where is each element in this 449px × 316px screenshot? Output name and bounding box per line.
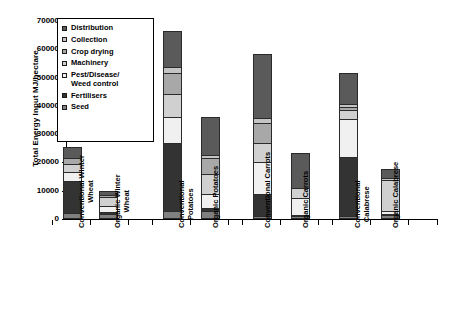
x-axis-label: Organic Calabrese [391, 162, 400, 228]
x-axis-label: ConventionalCalabrese [353, 180, 371, 228]
y-tick-label: 30000 [13, 130, 59, 138]
legend-item-label: Fertilisers [71, 92, 107, 101]
legend-swatch-icon [62, 61, 67, 66]
x-axis-label-line: Wheat [122, 174, 131, 228]
bar-segment [164, 74, 181, 95]
legend-swatch-icon [62, 105, 67, 110]
y-tick-label: 10000 [13, 187, 59, 195]
legend-item-label: Distribution [71, 24, 113, 33]
y-tick-label: 40000 [13, 102, 59, 110]
legend-swatch-icon [62, 93, 67, 98]
legend-swatch-icon [62, 26, 67, 31]
bar-segment [164, 118, 181, 145]
legend-item-label: Machinery [71, 59, 108, 68]
x-axis-label-line: Organic Potatoes [211, 166, 220, 228]
x-axis-label-line: Organic Winter [113, 174, 122, 228]
y-tick-label: 50000 [13, 74, 59, 82]
legend-item[interactable]: Crop drying [62, 48, 153, 57]
x-axis-label: Organic Carrots [301, 171, 310, 228]
legend-item-label: Pest/Disease/Weed control [71, 71, 119, 88]
legend-item[interactable]: Distribution [62, 24, 153, 33]
x-axis-label-line: Organic Carrots [301, 171, 310, 228]
bar-segment [164, 95, 181, 118]
x-axis-label-line: Conventional [353, 180, 362, 228]
legend-item[interactable]: Machinery [62, 59, 153, 68]
y-tick-mark [62, 219, 67, 220]
legend-item[interactable]: Fertilisers [62, 92, 153, 101]
chart-legend: DistributionCollectionCrop dryingMachine… [57, 18, 154, 142]
x-tick-mark [228, 220, 229, 225]
x-axis-label: Conventional Carrots [263, 152, 272, 228]
legend-item-label: Collection [71, 36, 107, 45]
y-tick-label: 60000 [13, 45, 59, 53]
x-axis-label-line: Wheat [86, 155, 95, 228]
x-axis-label: Conventional WinterWheat [77, 155, 95, 228]
legend-item[interactable]: Seed [62, 103, 153, 112]
x-tick-mark [242, 220, 243, 225]
x-tick-mark [332, 220, 333, 225]
x-axis-label-line: Conventional [177, 180, 186, 228]
x-tick-mark [408, 220, 409, 225]
bar-segment [164, 32, 181, 68]
x-tick-mark [280, 220, 281, 225]
x-axis-label-line: Conventional Winter [77, 155, 86, 228]
x-tick-mark [318, 220, 319, 225]
x-axis-label-line: Conventional Carrots [263, 152, 272, 228]
x-axis-label-line: Potatoes [186, 180, 195, 228]
bar-segment [340, 120, 357, 158]
legend-swatch-icon [62, 49, 67, 54]
bar-segment [254, 55, 271, 119]
x-tick-mark [437, 220, 438, 225]
legend-item-label: Crop drying [71, 48, 114, 57]
legend-swatch-icon [62, 73, 67, 78]
stacked-bar-chart: Total Energy Input MJ/hectare 0100002000… [0, 0, 449, 316]
bar-segment [340, 111, 357, 119]
y-tick-label: 70000 [13, 17, 59, 25]
x-tick-mark [152, 220, 153, 225]
x-axis-label: Organic Potatoes [211, 166, 220, 228]
y-tick-label: 20000 [13, 158, 59, 166]
legend-item[interactable]: Pest/Disease/Weed control [62, 71, 153, 88]
x-axis-label-line: Calabrese [362, 180, 371, 228]
x-axis-label: Organic WinterWheat [113, 174, 131, 228]
legend-swatch-icon [62, 37, 67, 42]
bar-segment [202, 118, 219, 155]
x-tick-mark [52, 220, 53, 225]
bar-segment [254, 124, 271, 144]
x-axis-label-line: Organic Calabrese [391, 162, 400, 228]
legend-item[interactable]: Collection [62, 36, 153, 45]
bar-segment [340, 74, 357, 105]
x-axis-label: ConventionalPotatoes [177, 180, 195, 228]
legend-item-label: Seed [71, 103, 89, 112]
